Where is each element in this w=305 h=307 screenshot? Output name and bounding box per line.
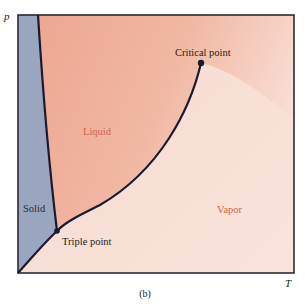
critical-point-marker — [198, 60, 204, 66]
liquid-label: Liquid — [83, 126, 112, 137]
triple-point-marker — [54, 228, 60, 234]
solid-label: Solid — [23, 203, 46, 214]
critical-point-label: Critical point — [175, 47, 231, 58]
vapor-label: Vapor — [217, 204, 243, 215]
triple-point-label: Triple point — [62, 236, 112, 247]
figure-caption: (b) — [139, 288, 151, 300]
phase-diagram: p T (b) Liquid Vapor Solid Triple point … — [0, 0, 305, 307]
y-axis-label: p — [3, 10, 10, 22]
x-axis-label: T — [285, 277, 292, 289]
